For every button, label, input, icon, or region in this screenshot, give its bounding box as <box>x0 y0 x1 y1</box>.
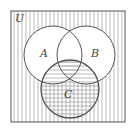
label-u: U <box>15 12 25 25</box>
label-a: A <box>39 47 48 60</box>
label-c: C <box>64 88 73 101</box>
label-b: B <box>90 47 99 60</box>
venn-diagram: U A B C <box>0 0 133 129</box>
